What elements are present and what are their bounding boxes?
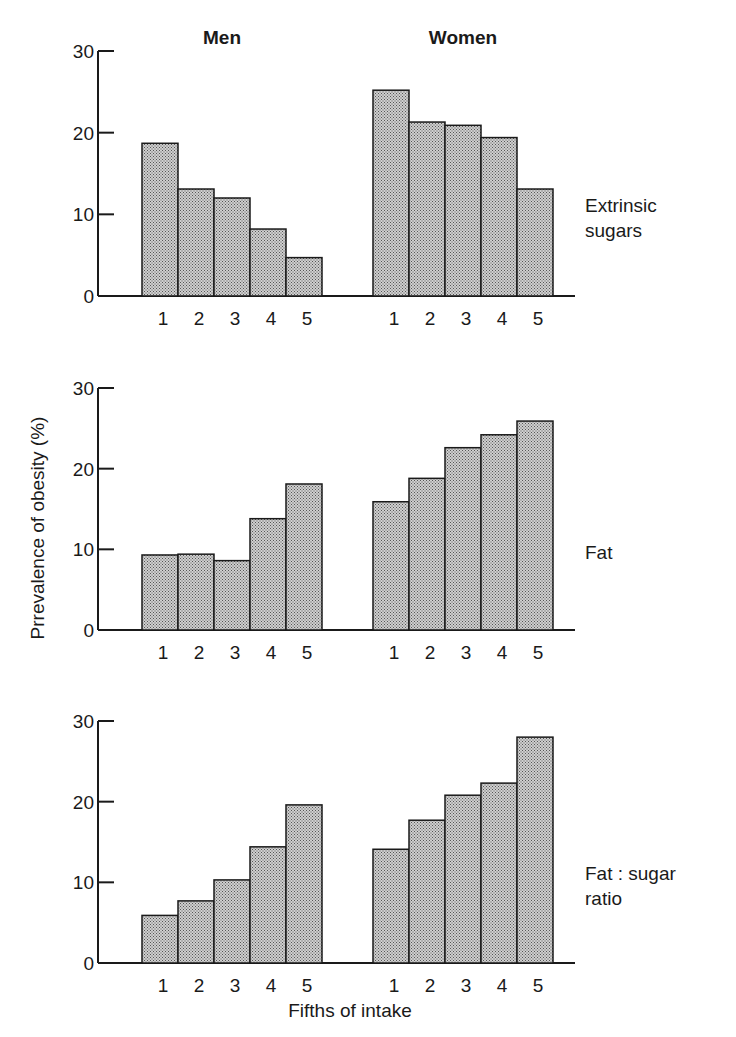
- category-label: 5: [533, 642, 544, 663]
- category-label: 4: [497, 975, 508, 996]
- obesity-prevalence-chart: Men Women 01020301234512345Extrinsicsuga…: [0, 0, 736, 1037]
- category-label: 3: [461, 975, 472, 996]
- y-tick-label: 0: [83, 286, 94, 307]
- panel-label: Fat: [585, 542, 613, 563]
- category-label: 1: [158, 975, 169, 996]
- panel-label: Extrinsic: [585, 195, 657, 216]
- bar-men-4: [250, 847, 286, 963]
- category-label: 3: [461, 642, 472, 663]
- bar-men-4: [250, 229, 286, 296]
- category-label: 4: [266, 308, 277, 329]
- category-label: 4: [497, 308, 508, 329]
- bar-women-3: [445, 448, 481, 630]
- category-label: 4: [266, 642, 277, 663]
- y-tick-label: 10: [73, 539, 94, 560]
- category-label: 2: [194, 642, 205, 663]
- panel-extrinsic-sugars: 01020301234512345Extrinsicsugars: [73, 41, 657, 329]
- bar-women-3: [445, 125, 481, 296]
- bar-women-4: [481, 138, 517, 296]
- y-tick-label: 30: [73, 711, 94, 732]
- bar-men-1: [142, 555, 178, 630]
- bar-men-5: [286, 258, 322, 296]
- bar-men-2: [178, 189, 214, 296]
- bar-men-4: [250, 519, 286, 630]
- category-label: 4: [497, 642, 508, 663]
- category-label: 5: [302, 975, 313, 996]
- panel-label: Fat : sugar: [585, 863, 676, 884]
- bar-women-4: [481, 783, 517, 963]
- bar-women-5: [517, 189, 553, 296]
- panel-label: sugars: [585, 220, 642, 241]
- y-tick-label: 30: [73, 41, 94, 62]
- bar-men-3: [214, 880, 250, 963]
- y-tick-label: 10: [73, 872, 94, 893]
- panel-fat-sugar-ratio: 01020301234512345Fat : sugarratio: [73, 711, 677, 996]
- category-label: 3: [230, 308, 241, 329]
- bar-men-1: [142, 143, 178, 296]
- bar-women-5: [517, 421, 553, 630]
- panel-fat: 01020301234512345Fat: [73, 378, 613, 663]
- bar-men-3: [214, 198, 250, 296]
- category-label: 2: [425, 975, 436, 996]
- bar-women-3: [445, 795, 481, 963]
- category-label: 3: [461, 308, 472, 329]
- category-label: 5: [302, 308, 313, 329]
- category-label: 5: [533, 975, 544, 996]
- bar-women-1: [373, 90, 409, 296]
- panel-label: ratio: [585, 888, 622, 909]
- category-label: 1: [389, 975, 400, 996]
- y-tick-label: 20: [73, 459, 94, 480]
- bar-men-1: [142, 915, 178, 963]
- y-tick-label: 0: [83, 953, 94, 974]
- category-label: 2: [425, 642, 436, 663]
- category-label: 1: [158, 642, 169, 663]
- category-label: 1: [158, 308, 169, 329]
- category-label: 1: [389, 642, 400, 663]
- category-label: 3: [230, 975, 241, 996]
- bar-men-5: [286, 484, 322, 630]
- x-axis-label: Fifths of intake: [288, 1000, 412, 1021]
- group-title-men: Men: [203, 27, 241, 48]
- bar-women-1: [373, 502, 409, 630]
- category-label: 3: [230, 642, 241, 663]
- bar-men-3: [214, 561, 250, 630]
- bar-women-5: [517, 737, 553, 963]
- bar-women-1: [373, 849, 409, 963]
- category-label: 2: [425, 308, 436, 329]
- y-tick-label: 20: [73, 792, 94, 813]
- y-tick-label: 10: [73, 204, 94, 225]
- group-title-women: Women: [429, 27, 497, 48]
- bar-women-2: [409, 122, 445, 296]
- bar-women-2: [409, 478, 445, 630]
- y-tick-label: 0: [83, 620, 94, 641]
- bar-men-2: [178, 554, 214, 630]
- y-tick-label: 20: [73, 123, 94, 144]
- panels: 01020301234512345Extrinsicsugars01020301…: [73, 41, 677, 996]
- category-label: 4: [266, 975, 277, 996]
- y-tick-label: 30: [73, 378, 94, 399]
- category-label: 1: [389, 308, 400, 329]
- y-axis-label: Prrevalence of obesity (%): [27, 417, 48, 640]
- category-label: 2: [194, 975, 205, 996]
- category-label: 5: [533, 308, 544, 329]
- bar-women-4: [481, 435, 517, 630]
- bar-women-2: [409, 820, 445, 963]
- bar-men-2: [178, 901, 214, 963]
- category-label: 5: [302, 642, 313, 663]
- category-label: 2: [194, 308, 205, 329]
- bar-men-5: [286, 805, 322, 963]
